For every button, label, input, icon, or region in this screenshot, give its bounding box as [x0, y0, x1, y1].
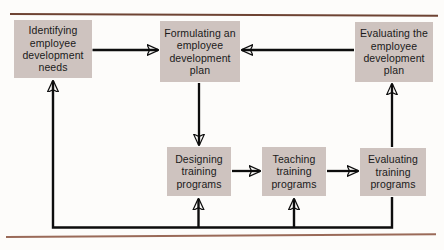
node-evaluating-training[interactable]: Evaluating training programs — [360, 148, 426, 196]
node-label: Formulating an employee development plan — [163, 27, 237, 77]
node-evaluating-plan[interactable]: Evaluating the employee development plan — [355, 22, 433, 82]
node-teaching-training[interactable]: Teaching training programs — [262, 147, 326, 196]
node-label: Evaluating the employee development plan — [358, 27, 430, 77]
node-label: Designing training programs — [170, 153, 228, 190]
node-formulating-plan[interactable]: Formulating an employee development plan — [160, 21, 240, 82]
diagram-canvas: Identifying employee development needs F… — [0, 0, 444, 250]
node-label: Identifying employee development needs — [17, 24, 89, 74]
node-label: Evaluating training programs — [363, 153, 423, 190]
horizontal-rule-bottom — [6, 233, 436, 238]
node-label: Teaching training programs — [265, 153, 323, 190]
node-identifying-needs[interactable]: Identifying employee development needs — [14, 20, 92, 78]
horizontal-rule-top — [10, 13, 438, 17]
node-designing-training[interactable]: Designing training programs — [167, 147, 231, 196]
